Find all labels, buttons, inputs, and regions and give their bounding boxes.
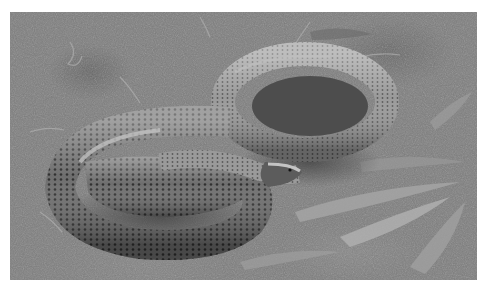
snake-eye [288, 168, 291, 171]
snake-illustration [10, 12, 477, 280]
snake-photo [10, 12, 477, 280]
